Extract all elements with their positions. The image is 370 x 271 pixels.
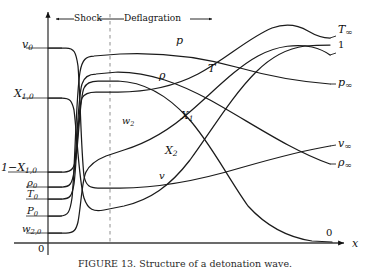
curve-label-rho: ρ [159,70,165,81]
region-label-shock: Shock [74,13,102,23]
data-curves [48,25,332,242]
end-label-p-infinity: p∞ [338,77,352,90]
region-label-deflagration: Deflagration [124,13,181,23]
curve-X1 [48,45,330,211]
axis-tick-w20: w2,0 [22,224,41,235]
curve-label-T: T [208,63,215,74]
axis-tick-one-minus-X10: 1−X1,0 [1,162,37,174]
figure-caption: FIGURE 13. Structure of a detonation wav… [0,258,370,271]
end-label-one: 1 [338,40,344,50]
end-label-rho-infinity: ρ∞ [338,157,352,170]
end-label-T-infinity: T∞ [338,24,353,37]
combustion-profile-plot [0,0,370,271]
axis-tick-P0: P0 [27,206,38,217]
curve-label-p: p [176,35,183,46]
tick-one [330,53,336,55]
figure-container: Shock Deflagration v0 X1,0 1−X1,0 ρ0 T0 … [0,0,370,271]
curve-label-w2: w2 [122,116,134,127]
axis-origin-label: 0 [38,244,44,254]
x-axis-label: x [352,238,358,249]
axis-tick-X10: X1,0 [14,88,34,100]
right-end-ticks [330,36,336,164]
axis-tick-T0: T0 [27,189,38,200]
curve-label-X1: X1 [181,110,194,122]
curve-X2 [48,81,332,242]
axis-tick-v0: v0 [22,39,33,51]
curve-label-X2: X2 [165,145,178,157]
tick-vinf [330,145,336,146]
end-label-v-infinity: v∞ [338,138,352,151]
tick-Tinf [330,36,336,38]
end-label-zero: 0 [326,228,332,238]
curve-rho [48,72,330,187]
curve-label-v: v [159,171,165,181]
curve-w2 [48,46,330,233]
